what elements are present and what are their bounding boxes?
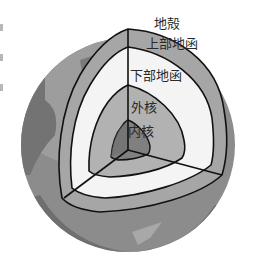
- left-edge-mark: [0, 24, 3, 31]
- label-inner-core: 内核: [128, 125, 154, 139]
- left-edge-mark: [0, 54, 3, 61]
- label-lower-mantle: 下部地函: [130, 69, 182, 83]
- left-edge-marks: [0, 20, 6, 95]
- label-crust: 地殻: [154, 17, 180, 31]
- earth-cutaway-graphic: [0, 0, 253, 266]
- left-edge-mark: [0, 84, 3, 91]
- label-upper-mantle: 上部地函: [146, 37, 198, 51]
- earth-structure-diagram: 地殻 上部地函 下部地函 外核 内核: [0, 0, 253, 266]
- label-outer-core: 外核: [131, 101, 157, 115]
